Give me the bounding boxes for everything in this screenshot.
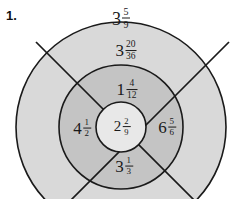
label-outer-ring-top: 3 20 36: [116, 40, 137, 62]
label-middle-ring-bottom-numerator: 1: [126, 156, 133, 165]
label-middle-ring-top-whole: 1: [117, 82, 126, 99]
label-center-fraction: 2 9: [122, 117, 130, 137]
label-center: 2 2 9: [114, 117, 131, 137]
label-middle-ring-right-denominator: 6: [169, 128, 176, 137]
label-center-denominator: 9: [123, 128, 129, 137]
label-middle-ring-left: 4 1 2: [73, 118, 91, 139]
label-outer-ring-top-numerator: 20: [125, 40, 137, 50]
label-middle-ring-top: 1 4 12: [117, 79, 138, 101]
worksheet-figure-canvas: 1. 3 5 9 3 20 36 1 4: [0, 0, 232, 199]
label-outside-top-numerator: 5: [123, 7, 130, 18]
label-middle-ring-right-numerator: 5: [169, 117, 176, 126]
label-middle-ring-left-fraction: 1 2: [83, 118, 91, 139]
label-center-numerator: 2: [123, 117, 129, 126]
label-middle-ring-bottom-fraction: 1 3: [125, 156, 133, 177]
label-middle-ring-right-whole: 6: [158, 119, 167, 136]
label-middle-ring-bottom: 3 1 3: [115, 156, 133, 177]
label-outside-top-denominator: 9: [123, 19, 130, 30]
label-middle-ring-top-fraction: 4 12: [126, 79, 138, 101]
label-middle-ring-right: 6 5 6: [158, 117, 176, 138]
label-middle-ring-bottom-denominator: 3: [126, 167, 133, 176]
label-outer-ring-top-whole: 3: [116, 43, 125, 60]
label-outside-top: 3 5 9: [112, 7, 130, 30]
label-middle-ring-left-whole: 4: [73, 120, 82, 137]
label-middle-ring-top-numerator: 4: [128, 79, 135, 89]
label-outer-ring-top-denominator: 36: [125, 52, 137, 62]
label-center-whole: 2: [114, 120, 122, 135]
label-middle-ring-left-denominator: 2: [84, 129, 91, 138]
label-outer-ring-top-fraction: 20 36: [125, 40, 137, 62]
label-middle-ring-right-fraction: 5 6: [168, 117, 176, 138]
label-outside-top-whole: 3: [112, 9, 121, 27]
label-middle-ring-left-numerator: 1: [84, 118, 91, 127]
label-middle-ring-bottom-whole: 3: [115, 158, 124, 175]
label-outside-top-fraction: 5 9: [122, 7, 130, 30]
label-middle-ring-top-denominator: 12: [126, 91, 138, 101]
